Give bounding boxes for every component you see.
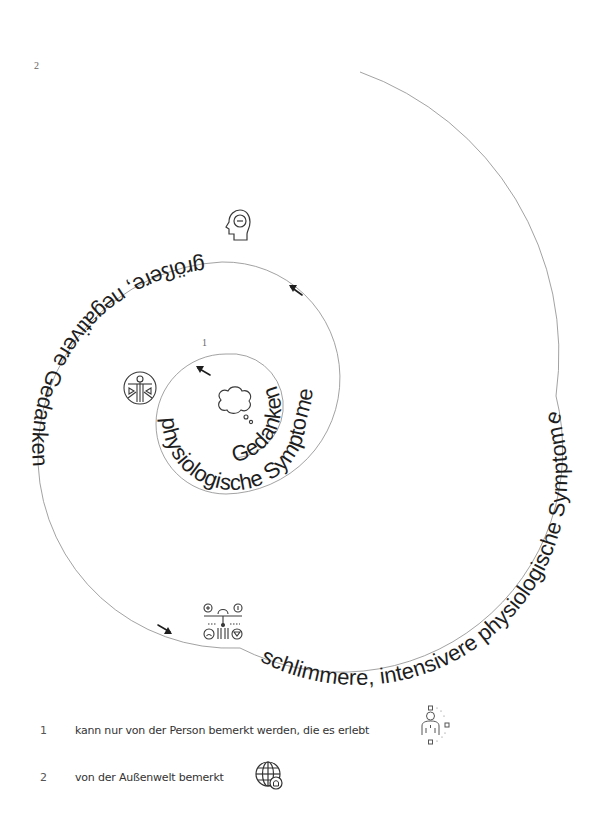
legend-text: kann nur von der Person bemerkt werden, …	[75, 724, 369, 737]
body-figure-icon	[124, 372, 156, 404]
thought-cloud-icon	[219, 387, 253, 424]
legend-text: von der Außenwelt bemerkt	[75, 771, 224, 784]
legend-item-2: 2 von der Außenwelt bemerkt	[0, 767, 616, 787]
legend-number: 1	[40, 724, 47, 737]
head-minus-icon	[226, 210, 250, 240]
spiral-diagram: Gedanken physiologische Symptome größere…	[0, 0, 616, 828]
spiral-text-schlimmere-symptome: schlimmere, intensivere physiologische S…	[257, 407, 572, 690]
globe-icon	[254, 760, 286, 792]
person-inner-icon	[418, 705, 458, 747]
marker-inner: 1	[202, 337, 207, 348]
legend-number: 2	[40, 771, 47, 784]
legend-item-1: 1 kann nur von der Person bemerkt werden…	[0, 720, 616, 740]
symptoms-network-icon	[204, 604, 242, 639]
marker-outer: 2	[34, 60, 39, 71]
spiral-line	[38, 72, 563, 672]
